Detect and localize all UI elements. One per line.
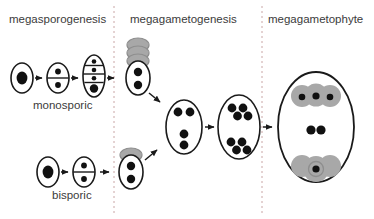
cell-outline (126, 61, 150, 95)
mature-embryo-sac (278, 72, 354, 182)
antipodal-nucleus (299, 94, 306, 101)
nucleus (81, 163, 87, 169)
nucleus (174, 108, 183, 117)
arrow-bisporic-to-four-nucleate (145, 150, 157, 160)
nucleus (180, 130, 189, 139)
nucleus (127, 162, 135, 170)
nucleus (127, 175, 135, 183)
nucleus (228, 104, 237, 113)
antipodal-cells (291, 84, 341, 108)
monosporic-pathway (11, 38, 160, 102)
bisporic-dyad (73, 157, 95, 187)
functional-megaspore-nucleus (90, 84, 98, 92)
nucleus (81, 176, 87, 182)
cell-outline (119, 155, 143, 189)
monosporic-functional-megaspore (126, 38, 150, 95)
antipodal-nucleus (327, 94, 334, 101)
bisporic-functional-dyad (119, 148, 143, 189)
eight-nucleate-embryo-sac (218, 95, 260, 159)
nucleus (243, 146, 252, 155)
nucleus (232, 146, 241, 155)
nucleus (92, 68, 97, 73)
nucleus (233, 112, 242, 121)
nucleus (134, 81, 142, 89)
nucleus (239, 104, 248, 113)
monosporic-megaspore-mother-cell (11, 63, 33, 93)
monosporic-tetrad (83, 55, 105, 97)
nucleus (244, 112, 253, 121)
nucleus (180, 141, 189, 150)
egg-nucleus (312, 165, 319, 172)
nucleus (55, 69, 61, 75)
bisporic-megaspore-mother-cell (37, 157, 59, 187)
nucleus (55, 82, 61, 88)
nucleus (227, 138, 236, 147)
antipodal-nucleus (312, 92, 319, 99)
nucleus (17, 72, 28, 85)
monosporic-dyad (47, 63, 69, 93)
nucleus (43, 166, 54, 179)
polar-nucleus (316, 125, 325, 134)
nucleus (134, 68, 142, 76)
four-nucleate-embryo-sac (166, 100, 202, 154)
nucleus (186, 108, 195, 117)
nucleus (238, 138, 247, 147)
polar-nucleus (306, 125, 315, 134)
life-cycle-diagram (0, 0, 374, 219)
nucleus (92, 59, 97, 64)
figure-root: megasporogenesis megagametogenesis megag… (0, 0, 374, 219)
arrow-monosporic-to-four-nucleate (149, 93, 160, 102)
bisporic-pathway (37, 148, 157, 189)
nucleus (92, 76, 97, 81)
egg-apparatus (291, 155, 341, 182)
